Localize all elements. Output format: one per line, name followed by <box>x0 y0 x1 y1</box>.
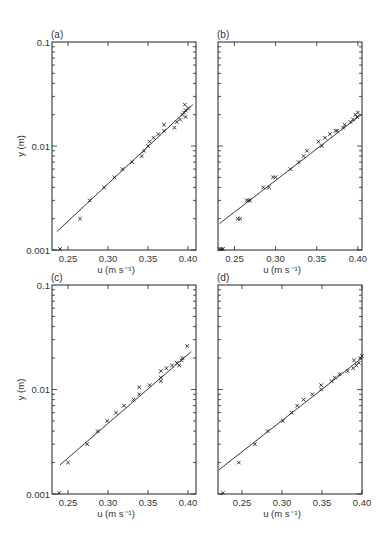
x-tick-label: 0.40 <box>179 497 198 508</box>
data-point <box>289 167 293 171</box>
data-point <box>165 366 169 370</box>
data-point <box>140 154 144 158</box>
data-point <box>137 392 141 396</box>
data-point <box>356 111 360 115</box>
data-point <box>137 385 141 389</box>
y-axis-label: y (m) <box>15 135 26 157</box>
data-point <box>78 217 82 221</box>
data-point <box>352 359 356 363</box>
data-point <box>305 149 309 153</box>
fit-line <box>60 352 191 465</box>
data-point <box>122 404 126 408</box>
y-tick-label: 0.001 <box>26 245 50 256</box>
data-point <box>146 144 150 148</box>
x-tick-label: 0.35 <box>139 253 158 264</box>
data-point <box>267 186 271 190</box>
data-point <box>162 123 166 127</box>
x-tick-label: 0.35 <box>313 497 332 508</box>
data-point <box>274 176 278 180</box>
x-tick-label: 0.40 <box>349 253 368 264</box>
data-point <box>317 140 321 144</box>
data-point <box>85 442 89 446</box>
y-tick-label: 0.1 <box>37 280 50 291</box>
data-point <box>357 361 361 365</box>
plot-frame <box>52 42 196 250</box>
data-point <box>261 186 265 190</box>
x-tick-label: 0.25 <box>59 497 78 508</box>
plot-frame <box>218 285 362 494</box>
panel-b: 0.250.300.350.40(b)u (m s⁻¹) <box>217 29 367 275</box>
data-point <box>159 369 163 373</box>
y-tick-label: 0.001 <box>26 489 50 500</box>
fit-line <box>57 105 193 232</box>
x-axis-label: u (m s⁻¹) <box>263 264 301 275</box>
data-point <box>328 132 332 136</box>
x-axis-label: u (m s⁻¹) <box>263 508 301 519</box>
y-axis-label: y (m) <box>15 379 26 401</box>
data-point <box>290 411 294 415</box>
x-tick-label: 0.25 <box>225 253 244 264</box>
x-tick-label: 0.30 <box>266 253 285 264</box>
x-tick-label: 0.30 <box>99 497 118 508</box>
x-tick-label: 0.35 <box>307 253 326 264</box>
x-tick-label: 0.30 <box>273 497 292 508</box>
panel-a: 0.250.300.350.400.0010.010.1(a)u (m s⁻¹)… <box>15 29 197 275</box>
figure: 0.250.300.350.400.0010.010.1(a)u (m s⁻¹)… <box>0 0 383 544</box>
panel-label: (c) <box>51 272 63 283</box>
x-tick-label: 0.40 <box>179 253 198 264</box>
data-point <box>178 118 182 122</box>
data-point <box>66 461 70 465</box>
x-tick-label: 0.30 <box>99 253 118 264</box>
data-point <box>238 217 242 221</box>
data-point <box>311 392 315 396</box>
data-point <box>184 115 188 119</box>
x-tick-label: 0.40 <box>353 497 372 508</box>
data-point <box>302 154 306 158</box>
data-point <box>159 376 163 380</box>
x-axis-label: u (m s⁻¹) <box>97 264 135 275</box>
data-point <box>183 103 187 107</box>
data-point <box>113 176 117 180</box>
data-point <box>253 442 257 446</box>
panel-label: (d) <box>217 272 229 283</box>
y-tick-label: 0.01 <box>32 384 51 395</box>
data-point <box>185 344 189 348</box>
data-point <box>237 461 241 465</box>
x-tick-label: 0.25 <box>59 253 78 264</box>
data-point <box>323 136 327 140</box>
data-point <box>173 126 177 130</box>
data-point <box>142 149 146 153</box>
y-tick-label: 0.1 <box>37 37 50 48</box>
y-tick-label: 0.01 <box>32 141 51 152</box>
panel-label: (a) <box>51 29 63 40</box>
data-point <box>319 383 323 387</box>
data-point <box>170 364 174 368</box>
data-point <box>114 411 118 415</box>
data-point <box>148 383 152 387</box>
data-point <box>177 364 181 368</box>
panel-label: (b) <box>217 29 229 40</box>
data-point <box>148 140 152 144</box>
x-axis-label: u (m s⁻¹) <box>97 508 135 519</box>
data-point <box>102 186 106 190</box>
x-tick-label: 0.35 <box>139 497 158 508</box>
x-tick-label: 0.25 <box>233 497 252 508</box>
data-point <box>295 404 299 408</box>
data-point <box>157 132 161 136</box>
panel-d: 0.250.300.350.40(d)u (m s⁻¹) <box>217 272 371 519</box>
data-point <box>105 419 109 423</box>
panel-c: 0.250.300.350.400.0010.010.1(c)u (m s⁻¹)… <box>15 272 197 519</box>
data-point <box>302 398 306 402</box>
data-point <box>159 379 163 383</box>
plot-frame <box>52 285 196 494</box>
data-point <box>152 136 156 140</box>
